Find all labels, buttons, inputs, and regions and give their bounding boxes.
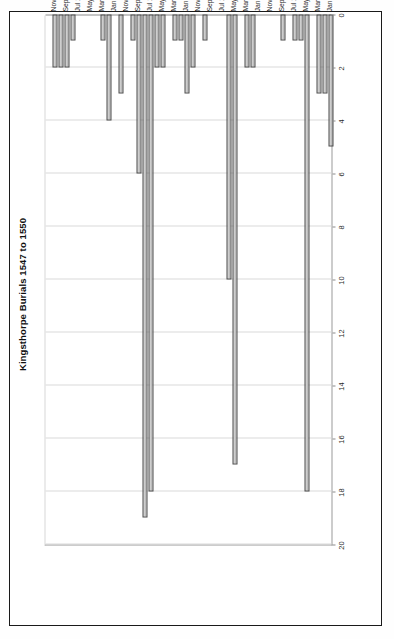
- bar: [142, 15, 147, 519]
- x-tick-label: 12: [337, 321, 346, 347]
- x-tick-mark: [333, 333, 336, 334]
- bar: [304, 15, 309, 492]
- category-tick-label: May 1549: [158, 0, 166, 12]
- gridline: [46, 279, 332, 280]
- x-tick-mark: [333, 121, 336, 122]
- category-tick-label: Nov 1550: [50, 0, 58, 12]
- gridline: [46, 385, 332, 386]
- x-tick-label: 8: [337, 215, 346, 241]
- category-tick-label: Sep 1550: [62, 0, 70, 12]
- category-tick-label: Jul 1547: [290, 0, 298, 12]
- category-tick-label: Mar 1548: [242, 0, 250, 12]
- category-tick-label: May 1547: [302, 0, 310, 12]
- x-tick-mark: [333, 439, 336, 440]
- bar: [52, 15, 57, 68]
- category-tick-label: Mar 1550: [98, 0, 106, 12]
- category-tick-label: Jan 1547: [326, 0, 334, 12]
- bar: [172, 15, 177, 42]
- bar: [130, 15, 135, 42]
- x-tick-label: 2: [337, 56, 346, 82]
- x-tick-mark: [333, 68, 336, 69]
- x-tick-label: 16: [337, 427, 346, 453]
- bar: [154, 15, 159, 68]
- x-tick-mark: [333, 174, 336, 175]
- category-tick-label: Sep 1549: [134, 0, 142, 12]
- bar: [316, 15, 321, 95]
- category-tick-label: Nov 1547: [266, 0, 274, 12]
- bar: [190, 15, 195, 68]
- gridline: [46, 332, 332, 333]
- bar: [184, 15, 189, 95]
- category-tick-label: Jul 1549: [146, 0, 154, 12]
- x-tick-mark: [333, 545, 336, 546]
- category-tick-label: Jul 1548: [218, 0, 226, 12]
- bar: [100, 15, 105, 42]
- gridline: [46, 491, 332, 492]
- bar: [118, 15, 123, 95]
- category-tick-label: Sep 1547: [278, 0, 286, 12]
- category-axis-labels: Jan 1547Mar 1547May 1547Jul 1547Sep 1547…: [45, 0, 333, 12]
- gridline: [46, 173, 332, 174]
- category-tick-label: May 1548: [230, 0, 238, 12]
- bar: [70, 15, 75, 42]
- bar: [232, 15, 237, 466]
- bar: [106, 15, 111, 121]
- bar: [280, 15, 285, 42]
- bar: [136, 15, 141, 174]
- plot-area: [45, 16, 333, 546]
- category-tick-label: Mar 1547: [314, 0, 322, 12]
- x-tick-mark: [333, 227, 336, 228]
- x-tick-mark: [333, 386, 336, 387]
- bar: [322, 15, 327, 95]
- x-tick-mark: [333, 492, 336, 493]
- gridline: [46, 226, 332, 227]
- bar: [58, 15, 63, 68]
- category-tick-label: Jul 1550: [74, 0, 82, 12]
- bar: [64, 15, 69, 68]
- category-tick-label: Jan 1549: [182, 0, 190, 12]
- category-tick-label: Nov 1549: [122, 0, 130, 12]
- gridline: [46, 438, 332, 439]
- bar: [202, 15, 207, 42]
- x-tick-label: 0: [337, 3, 346, 29]
- rotated-chart-wrapper: Kingsthorpe Burials 1547 to 1550 0246810…: [1, 0, 374, 590]
- bar: [226, 15, 231, 280]
- category-tick-label: Nov 1548: [194, 0, 202, 12]
- x-tick-label: 10: [337, 268, 346, 294]
- chart-title: Kingsthorpe Burials 1547 to 1550: [17, 0, 28, 590]
- bar: [292, 15, 297, 42]
- bar: [148, 15, 153, 492]
- category-tick-label: Jan 1548: [254, 0, 262, 12]
- bar: [160, 15, 165, 68]
- bar: [244, 15, 249, 68]
- x-tick-label: 18: [337, 480, 346, 506]
- category-tick-label: Mar 1549: [170, 0, 178, 12]
- x-tick-label: 20: [337, 533, 346, 559]
- x-tick-label: 4: [337, 109, 346, 135]
- x-tick-label: 14: [337, 374, 346, 400]
- bar: [250, 15, 255, 68]
- gridline: [46, 120, 332, 121]
- bar: [328, 15, 333, 148]
- category-tick-label: May 1550: [86, 0, 94, 12]
- chart-area: Kingsthorpe Burials 1547 to 1550 0246810…: [1, 0, 374, 590]
- category-tick-label: Jan 1550: [110, 0, 118, 12]
- x-tick-label: 6: [337, 162, 346, 188]
- bar: [178, 15, 183, 42]
- x-tick-mark: [333, 280, 336, 281]
- x-tick-mark: [333, 15, 336, 16]
- bar: [298, 15, 303, 42]
- gridline: [46, 544, 332, 545]
- chart-page: Kingsthorpe Burials 1547 to 1550 0246810…: [0, 0, 394, 639]
- category-tick-label: Sep 1548: [206, 0, 214, 12]
